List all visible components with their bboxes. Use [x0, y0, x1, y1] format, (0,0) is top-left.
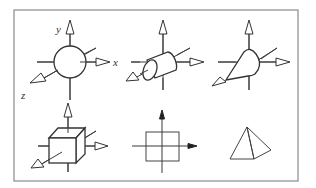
diagram-canvas: y x z: [0, 0, 316, 188]
cube-x-arrow-icon: [95, 142, 108, 150]
cube-front-face: [49, 138, 76, 163]
z-axis-label: z: [20, 89, 26, 101]
sphere-z-arrow-icon: [30, 73, 46, 83]
x-axis-label: x: [112, 56, 118, 68]
cone-shape: [226, 49, 260, 80]
y-axis-label: y: [55, 23, 61, 35]
square-2d-panel: [132, 110, 197, 173]
pyramid-panel: [230, 127, 271, 159]
sphere-x-arrow-icon: [96, 58, 110, 66]
square-x-arrow-icon: [188, 144, 197, 149]
cube-panel: [31, 103, 108, 172]
square-y-arrow-icon: [160, 110, 165, 119]
pyramid-side-face: [247, 127, 271, 159]
cylinder-y-arrow-icon: [159, 20, 167, 34]
sphere-y-arrow-icon: [66, 20, 74, 34]
cone-panel: [212, 20, 290, 90]
cone-y-arrow-icon: [245, 20, 253, 34]
cone-x-arrow-icon: [276, 58, 290, 66]
cube-y-arrow-icon: [64, 103, 72, 117]
cylinder-x-arrow-icon: [190, 58, 204, 66]
cylinder-panel: [126, 20, 204, 90]
sphere-panel: y x z: [20, 20, 118, 101]
cone-z-arrow-icon: [212, 77, 226, 86]
